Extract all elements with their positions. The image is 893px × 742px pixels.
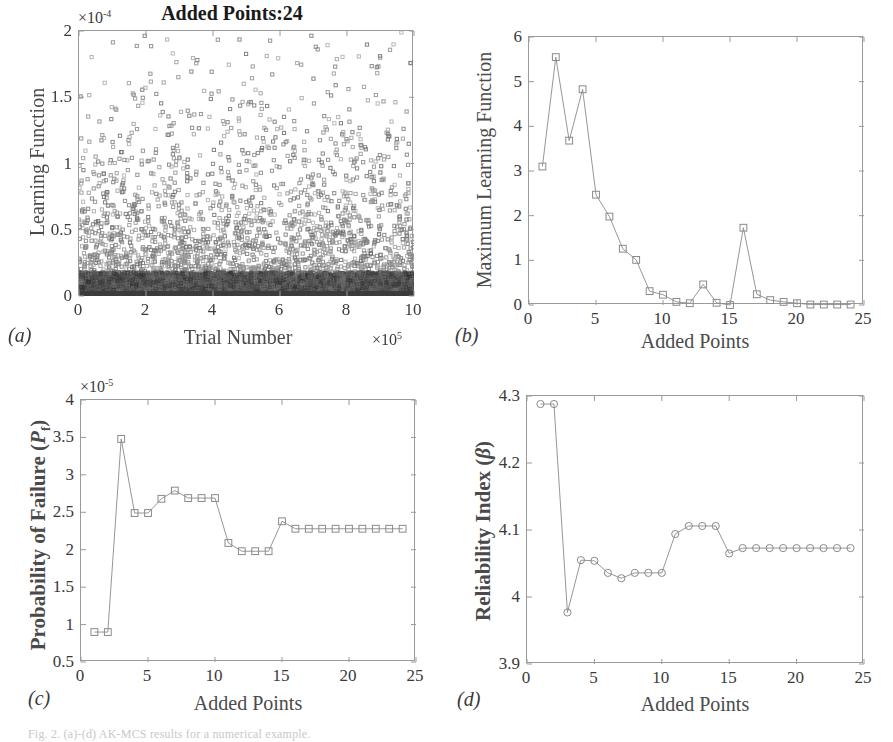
- panel-b-xtick-0: 0: [524, 310, 533, 327]
- panel-d-axis-ticks: [527, 396, 864, 664]
- y-mult-text: ×10: [78, 9, 103, 26]
- panel-b-axis-ticks: [529, 37, 864, 305]
- ylabel-main: Reliability Index (: [471, 459, 495, 621]
- panel-a-plot: [78, 30, 413, 295]
- panel-b-ytick-4: 4: [514, 117, 523, 134]
- panel-d-ytick-3: 4.2: [499, 454, 520, 471]
- panel-c-xtick-5: 25: [407, 667, 424, 684]
- panel-d-ylabel: Reliability Index (β): [471, 441, 496, 621]
- panel-a-y-multiplier: ×10-4: [78, 8, 111, 27]
- panel-d-xtick-4: 20: [787, 669, 804, 686]
- x-mult-exp: 5: [397, 330, 402, 341]
- panel-a-ytick-4: 2: [64, 22, 73, 39]
- panel-b-letter: (b): [455, 324, 478, 347]
- panel-c-ylabel: Probability of Failure (Pf): [26, 420, 54, 650]
- panel-b-plot: [528, 36, 863, 304]
- panel-b-ytick-3: 3: [514, 162, 523, 179]
- panel-d-xtick-3: 15: [720, 669, 737, 686]
- panel-b-ylabel: Maximum Learning Function: [473, 52, 496, 289]
- panel-d-xlabel: Added Points: [641, 693, 749, 716]
- y-mult-exp: -4: [103, 8, 111, 19]
- panel-a-xtick-1: 2: [141, 301, 150, 318]
- panel-d-ytick-4: 4.3: [499, 387, 520, 404]
- panel-b-xtick-1: 5: [591, 310, 600, 327]
- panel-d-ytick-1: 4: [512, 588, 521, 605]
- ylabel-symbol: β: [471, 448, 495, 459]
- panel-d-xtick-1: 5: [589, 669, 598, 686]
- panel-c: ×10-5 0.511.522.533.54 0510152025 Probab…: [0, 355, 450, 725]
- panel-a-xtick-3: 6: [275, 301, 284, 318]
- panel-c-ytick-3: 2: [66, 540, 75, 557]
- panel-c-ytick-0: 0.5: [53, 653, 74, 670]
- panel-a-ylabel: Learning Function: [26, 88, 49, 236]
- panel-b-xtick-4: 20: [788, 310, 805, 327]
- y-mult-text: ×10: [80, 378, 105, 395]
- panel-c-ytick-6: 3.5: [53, 428, 74, 445]
- panel-b-ytick-2: 2: [514, 206, 523, 223]
- panel-a-xtick-0: 0: [74, 301, 83, 318]
- panel-b-ytick-0: 0: [514, 296, 523, 313]
- panel-b-xtick-5: 25: [855, 310, 872, 327]
- panel-a-xtick-5: 10: [405, 301, 422, 318]
- panel-a-ytick-2: 1: [64, 154, 73, 171]
- panel-a-ytick-3: 1.5: [51, 88, 72, 105]
- panel-c-ytick-5: 3: [66, 465, 75, 482]
- panel-a-x-multiplier: ×105: [372, 330, 402, 349]
- x-mult-text: ×10: [372, 331, 397, 348]
- panel-c-letter: (c): [28, 687, 50, 710]
- panel-a-axis-ticks: [79, 31, 414, 296]
- panel-a-ytick-1: 0.5: [51, 220, 72, 237]
- panel-d-plot: [526, 395, 863, 663]
- panel-c-xlabel: Added Points: [194, 692, 302, 715]
- figure-caption: Fig. 2. (a)-(d) AK-MCS results for a num…: [28, 727, 311, 742]
- panel-b-xlabel: Added Points: [641, 330, 749, 353]
- ylabel-symbol: P: [26, 431, 50, 444]
- panel-a-xtick-4: 8: [342, 301, 351, 318]
- panel-b: 0123456 0510152025 Maximum Learning Func…: [443, 0, 893, 355]
- panel-c-xtick-4: 20: [340, 667, 357, 684]
- panel-b-xtick-3: 15: [721, 310, 738, 327]
- panel-c-ytick-2: 1.5: [53, 578, 74, 595]
- panel-d-xtick-0: 0: [522, 669, 531, 686]
- panel-d-xtick-2: 10: [652, 669, 669, 686]
- ylabel-close: ): [26, 420, 50, 427]
- y-mult-exp: -5: [105, 377, 113, 388]
- panel-a-title: Added Points:24: [161, 2, 303, 25]
- panel-c-xtick-3: 15: [273, 667, 290, 684]
- panel-c-xtick-1: 5: [143, 667, 152, 684]
- panel-c-ytick-7: 4: [66, 391, 75, 408]
- panel-c-ytick-4: 2.5: [53, 503, 74, 520]
- panel-d-xtick-5: 25: [855, 669, 872, 686]
- panel-c-xtick-2: 10: [206, 667, 223, 684]
- panel-c-ytick-1: 1: [66, 615, 75, 632]
- panel-c-axis-ticks: [81, 400, 416, 662]
- ylabel-close: ): [471, 441, 495, 448]
- panel-a-letter: (a): [8, 324, 31, 347]
- ylabel-subscript: f: [38, 427, 53, 431]
- ylabel-main: Probability of Failure (: [26, 444, 50, 650]
- panel-c-xtick-0: 0: [76, 667, 85, 684]
- panel-d-ytick-0: 3.9: [499, 655, 520, 672]
- panel-c-y-multiplier: ×10-5: [80, 377, 113, 396]
- panel-b-ytick-1: 1: [514, 251, 523, 268]
- panel-c-plot: [80, 399, 415, 661]
- panel-b-ytick-6: 6: [514, 28, 523, 45]
- panel-a-ytick-0: 0: [64, 287, 73, 304]
- panel-a-xtick-2: 4: [208, 301, 217, 318]
- panel-a: Added Points:24 ×10-4 00.511.52 0246810 …: [0, 0, 450, 355]
- panel-d-ytick-2: 4.1: [499, 521, 520, 538]
- panel-a-xlabel: Trial Number: [184, 326, 293, 349]
- panel-b-ytick-5: 5: [514, 72, 523, 89]
- panel-d: 3.944.14.24.3 0510152025 Reliability Ind…: [443, 355, 893, 725]
- panel-d-letter: (d): [457, 688, 480, 711]
- panel-b-xtick-2: 10: [654, 310, 671, 327]
